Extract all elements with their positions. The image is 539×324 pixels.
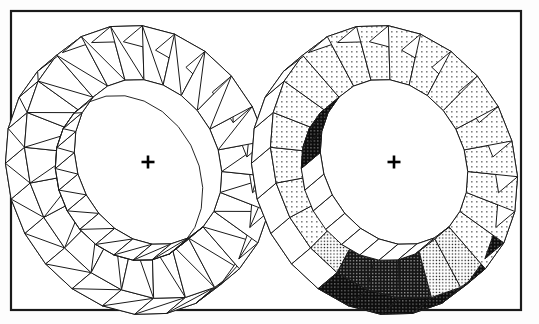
outer-wall-diagonal <box>38 71 39 81</box>
figure-container <box>0 0 539 324</box>
figure-canvas <box>0 0 539 324</box>
